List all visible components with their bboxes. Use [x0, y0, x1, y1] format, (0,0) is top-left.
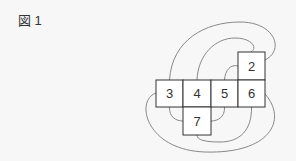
curve-5-bottom-to-7-right	[211, 107, 225, 121]
cell-6-number: 6	[248, 86, 255, 101]
cell-7-number: 7	[193, 114, 200, 129]
cell-3-number: 3	[166, 86, 173, 101]
cell-5-number: 5	[221, 86, 228, 101]
curve-3-bottom-to-7-left	[169, 107, 183, 121]
cell-2: 2	[238, 52, 265, 80]
cell-2-number: 2	[248, 59, 255, 74]
cell-7: 7	[183, 107, 211, 135]
cell-5: 5	[211, 80, 238, 107]
cube-net-diagram: 2 3 4 5 6 7	[0, 0, 296, 161]
cell-4: 4	[183, 80, 211, 107]
cell-6: 6	[238, 80, 265, 107]
cell-4-number: 4	[193, 86, 200, 101]
curve-5-top-to-2-left	[225, 66, 239, 80]
cell-3: 3	[156, 80, 183, 107]
